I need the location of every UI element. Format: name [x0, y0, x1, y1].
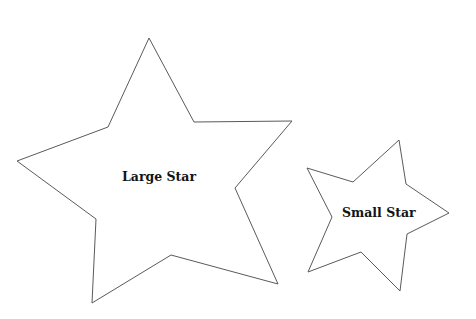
stars-svg — [0, 0, 476, 319]
diagram-canvas: Large Star Small Star — [0, 0, 476, 319]
large-star-label: Large Star — [122, 171, 196, 184]
small-star-label: Small Star — [342, 207, 416, 220]
